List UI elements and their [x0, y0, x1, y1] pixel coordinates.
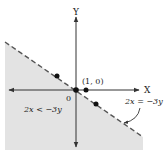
origin-point: [73, 87, 79, 93]
test-point-below-right: [94, 102, 99, 107]
inequality-graph: Y X 0 (1, 0) 2x < −3y 2x = −3y: [0, 0, 164, 153]
boundary-equation-label: 2x = −3y: [124, 97, 163, 106]
x-axis-label: X: [144, 85, 151, 95]
callout-arrow: [124, 108, 140, 123]
origin-label: 0: [66, 94, 71, 103]
test-point-above-left: [55, 74, 60, 79]
shaded-region: [5, 42, 143, 150]
point-1-0: [84, 88, 89, 93]
point-label: (1, 0): [82, 77, 104, 86]
inequality-label: 2x < −3y: [23, 105, 62, 114]
y-axis-label: Y: [72, 7, 80, 17]
